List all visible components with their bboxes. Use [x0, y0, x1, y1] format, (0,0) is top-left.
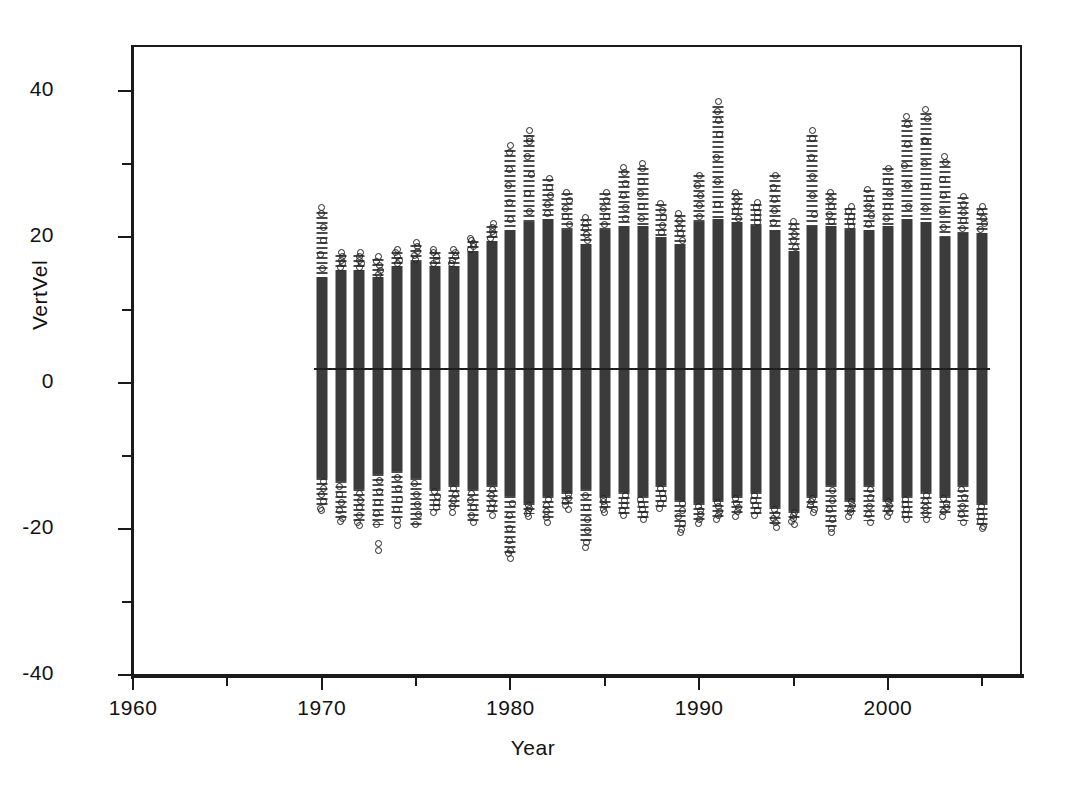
year-column-core: [448, 266, 459, 485]
data-point: [809, 192, 816, 199]
data-point: [751, 512, 758, 519]
data-point: [467, 235, 474, 242]
year-column-core: [524, 222, 535, 503]
x-axis-tick-label: 1980: [486, 696, 535, 720]
high-outlier-point: [526, 127, 533, 134]
data-point: [412, 521, 419, 528]
year-column-core: [920, 222, 931, 492]
data-point: [959, 503, 966, 510]
data-point: [566, 221, 573, 228]
year-column-core: [316, 277, 327, 478]
x-axis-minor-tick: [604, 677, 606, 686]
data-point: [601, 221, 608, 228]
data-point: [884, 513, 891, 520]
data-point: [507, 216, 514, 223]
low-outlier-point: [318, 507, 325, 514]
year-column-core: [826, 226, 837, 485]
data-point: [865, 511, 872, 518]
data-point: [657, 200, 664, 207]
y-axis-tick: [118, 236, 131, 238]
data-point: [810, 509, 817, 516]
data-point: [583, 231, 590, 238]
x-axis-tick-label: 1970: [297, 696, 346, 720]
data-point: [565, 506, 572, 513]
data-point: [566, 197, 573, 204]
data-point: [940, 192, 947, 199]
data-point: [732, 513, 739, 520]
data-point: [544, 519, 551, 526]
data-point: [867, 519, 874, 526]
data-point: [658, 229, 665, 236]
data-point: [546, 184, 553, 191]
year-column-core: [429, 266, 440, 489]
y-axis-title: VertVel: [28, 260, 52, 330]
data-point: [903, 516, 910, 523]
data-point: [868, 212, 875, 219]
data-point: [960, 201, 967, 208]
data-point: [829, 516, 836, 523]
data-point: [676, 217, 683, 224]
data-point: [960, 209, 967, 216]
year-column-core: [486, 241, 497, 486]
data-point: [939, 513, 946, 520]
data-point: [676, 224, 683, 231]
data-point: [563, 189, 570, 196]
y-axis-minor-tick: [122, 601, 131, 603]
data-point: [622, 204, 629, 211]
data-point: [450, 246, 457, 253]
high-outlier-point: [922, 106, 929, 113]
x-axis-minor-tick: [415, 677, 417, 686]
data-point: [826, 211, 833, 218]
x-axis-tick: [509, 677, 511, 690]
data-point: [582, 214, 589, 221]
data-point: [320, 498, 327, 505]
low-outlier-point: [356, 522, 363, 529]
x-axis-minor-tick: [793, 677, 795, 686]
data-point: [509, 500, 516, 507]
year-column-core: [335, 270, 346, 482]
data-point: [506, 166, 513, 173]
y-axis-tick: [118, 528, 131, 530]
high-outlier-point: [715, 117, 722, 124]
data-point: [848, 203, 855, 210]
year-column-core: [882, 226, 893, 500]
low-outlier-point: [677, 529, 684, 536]
data-point: [791, 521, 798, 528]
data-point: [679, 237, 686, 244]
data-point: [336, 483, 343, 490]
data-point: [414, 501, 421, 508]
data-point: [959, 225, 966, 232]
data-point: [638, 203, 645, 210]
x-axis-tick: [321, 677, 323, 690]
year-column-core: [354, 270, 365, 489]
high-outlier-point: [903, 113, 910, 120]
y-axis-minor-tick: [122, 455, 131, 457]
x-axis-tick: [887, 677, 889, 690]
data-point: [489, 512, 496, 519]
year-column-core: [958, 233, 969, 485]
data-point: [396, 496, 403, 503]
data-point: [376, 488, 383, 495]
data-point: [640, 516, 647, 523]
data-point: [694, 182, 701, 189]
data-point: [696, 213, 703, 220]
data-point: [923, 516, 930, 523]
data-point: [546, 175, 553, 182]
high-outlier-point: [941, 153, 948, 160]
data-point: [659, 222, 666, 229]
data-point: [809, 135, 816, 142]
year-column-core: [599, 230, 610, 497]
data-point: [336, 491, 343, 498]
y-axis-tick-label: -40: [0, 661, 54, 685]
data-point: [638, 215, 645, 222]
data-point: [865, 221, 872, 228]
x-axis-tick: [698, 677, 700, 690]
year-column-core: [713, 219, 724, 500]
data-point: [939, 208, 946, 215]
x-axis-tick: [132, 677, 134, 690]
data-point: [924, 115, 931, 122]
year-column-core: [845, 230, 856, 500]
year-column-core: [901, 219, 912, 496]
data-point: [829, 487, 836, 494]
data-point: [884, 203, 891, 210]
